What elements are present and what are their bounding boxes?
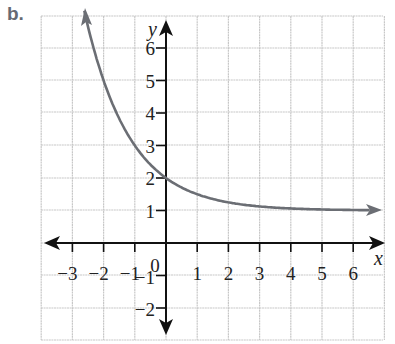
origin-label: 0 xyxy=(150,255,160,276)
y-tick-label: 3 xyxy=(146,136,156,157)
y-tick-label: 6 xyxy=(146,38,156,59)
x-tick-label: 2 xyxy=(224,263,234,284)
y-tick-label: 4 xyxy=(146,103,156,124)
chart: −3−2−1123456−2−11234560xy xyxy=(0,0,395,344)
x-tick-label: 1 xyxy=(192,263,202,284)
y-tick-label: −2 xyxy=(135,299,155,320)
y-tick-label: 2 xyxy=(146,168,156,189)
grid xyxy=(41,16,384,340)
y-tick-label: 5 xyxy=(146,71,156,92)
x-tick-label: 6 xyxy=(348,263,358,284)
y-tick-label: 1 xyxy=(146,201,156,222)
y-axis-label: y xyxy=(146,18,157,41)
x-axis-label: x xyxy=(373,247,383,269)
curve-path xyxy=(84,11,369,210)
x-tick-label: 5 xyxy=(317,263,327,284)
x-tick-label: 3 xyxy=(255,263,265,284)
x-tick-label: −2 xyxy=(88,263,108,284)
x-tick-label: −3 xyxy=(57,263,77,284)
x-tick-label: 4 xyxy=(286,263,296,284)
